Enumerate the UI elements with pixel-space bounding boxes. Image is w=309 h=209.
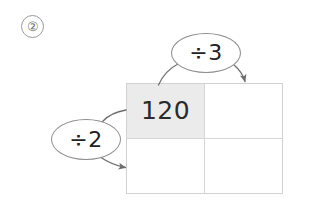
grid-cell-top-left[interactable]: 120 xyxy=(127,84,205,139)
operator-label-divide-by-3: ÷3 xyxy=(189,42,222,64)
grid-cell-top-right[interactable] xyxy=(205,84,282,139)
grid-cell-bottom-left[interactable] xyxy=(127,139,205,193)
answer-grid: 120 xyxy=(126,83,283,194)
arrow-divide-by-2-tail xyxy=(103,110,127,122)
problem-number-badge: ② xyxy=(21,15,44,38)
arrow-divide-by-3-head xyxy=(234,65,245,82)
operator-label-divide-by-2: ÷2 xyxy=(69,129,102,151)
grid-cell-bottom-right[interactable] xyxy=(205,139,282,193)
operator-bubble-divide-by-2: ÷2 xyxy=(51,119,121,160)
arrow-divide-by-2-head xyxy=(101,158,126,168)
worksheet-canvas: ② 120 ÷3 ÷2 xyxy=(0,0,309,209)
operator-bubble-divide-by-3: ÷3 xyxy=(171,33,241,73)
arrow-divide-by-3-tail xyxy=(159,64,179,85)
grid-cell-top-left-value: 120 xyxy=(141,98,190,124)
